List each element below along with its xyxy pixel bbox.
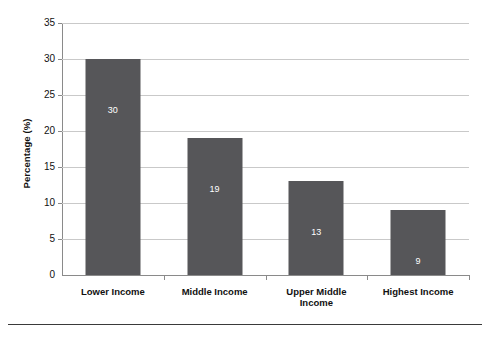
y-tick-label-20: 20	[44, 125, 55, 136]
y-tick-label-0: 0	[49, 269, 55, 280]
x-axis-category-label: Upper MiddleIncome	[264, 286, 368, 308]
category-label-line: Middle Income	[163, 286, 267, 297]
category-label-line: Upper Middle	[264, 286, 368, 297]
y-tick-label-25: 25	[44, 89, 55, 100]
category-label-line: Highest Income	[366, 286, 470, 297]
bar: 9	[391, 210, 446, 275]
x-tick-mark	[266, 275, 267, 280]
y-tick-label-5: 5	[49, 233, 55, 244]
bar-chart-figure: Percentage (%) 05101520253035 3019139 Lo…	[0, 0, 489, 338]
bar-value-label: 30	[85, 105, 140, 115]
bar-value-label: 19	[187, 184, 242, 194]
bar: 19	[187, 138, 242, 275]
y-tick-label-15: 15	[44, 161, 55, 172]
x-tick-mark	[164, 275, 165, 280]
x-axis-category-label: Highest Income	[366, 286, 470, 297]
bar-group: 9	[367, 23, 469, 275]
x-axis-category-label: Middle Income	[163, 286, 267, 297]
x-tick-mark	[367, 275, 368, 280]
bars-layer: 3019139	[62, 23, 469, 275]
bar-value-label: 9	[391, 256, 446, 266]
y-tick-label-10: 10	[44, 197, 55, 208]
y-tick-label-30: 30	[44, 53, 55, 64]
category-label-line: Income	[264, 297, 368, 308]
bar-group: 30	[62, 23, 164, 275]
footer-rule	[8, 324, 482, 325]
plot-area: 05101520253035 3019139 Lower IncomeMiddl…	[62, 23, 469, 275]
bar: 13	[289, 181, 344, 275]
bar-value-label: 13	[289, 227, 344, 237]
y-axis-title: Percentage (%)	[21, 99, 32, 209]
bar-group: 19	[164, 23, 266, 275]
bar: 30	[85, 59, 140, 275]
bar-group: 13	[266, 23, 368, 275]
category-label-line: Lower Income	[61, 286, 165, 297]
y-tick-label-35: 35	[44, 17, 55, 28]
x-tick-mark	[469, 275, 470, 280]
x-axis-category-label: Lower Income	[61, 286, 165, 297]
